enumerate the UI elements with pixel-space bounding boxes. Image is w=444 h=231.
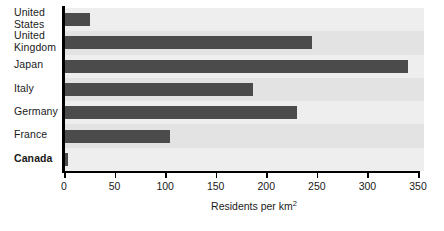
plot-band <box>64 8 424 31</box>
category-label: Italy <box>14 83 62 95</box>
x-axis-tick <box>367 173 369 178</box>
category-label: UnitedStates <box>14 7 62 30</box>
x-axis-tick <box>216 173 218 178</box>
y-axis-line <box>62 6 65 173</box>
bar <box>64 13 90 26</box>
plot-band <box>64 148 424 171</box>
x-axis-tick <box>165 173 167 178</box>
y-axis-category-labels: UnitedStatesUnitedKingdomJapanItalyGerma… <box>0 8 62 171</box>
bar <box>64 83 253 96</box>
category-label: France <box>14 129 62 141</box>
x-axis-tick-label: 250 <box>308 180 326 192</box>
x-axis-tick-label: 350 <box>409 180 427 192</box>
bar <box>64 130 170 143</box>
category-label: Canada <box>14 153 62 165</box>
category-label: Germany <box>14 106 62 118</box>
x-axis-tick <box>64 173 66 178</box>
bar <box>64 36 312 49</box>
bar-chart: UnitedStatesUnitedKingdomJapanItalyGerma… <box>0 0 444 231</box>
category-label: UnitedKingdom <box>14 30 62 53</box>
x-axis-title: Residents per km2 <box>0 200 444 212</box>
plot-area <box>64 8 424 171</box>
x-axis-tick-label: 300 <box>359 180 377 192</box>
x-axis-tick-label: 100 <box>156 180 174 192</box>
x-axis-tick-label: 150 <box>207 180 225 192</box>
x-axis-tick <box>115 173 117 178</box>
bar <box>64 106 297 119</box>
bar <box>64 153 68 166</box>
x-axis-tick-label: 200 <box>258 180 276 192</box>
bar <box>64 60 408 73</box>
x-axis-tick <box>266 173 268 178</box>
x-axis-tick <box>418 173 420 178</box>
x-axis-tick-label: 0 <box>61 180 67 192</box>
x-axis-tick-label: 50 <box>109 180 121 192</box>
x-axis-title-text: Residents per km <box>211 200 293 212</box>
category-label: Japan <box>14 59 62 71</box>
x-axis-tick <box>317 173 319 178</box>
x-axis-title-exponent: 2 <box>293 199 297 208</box>
